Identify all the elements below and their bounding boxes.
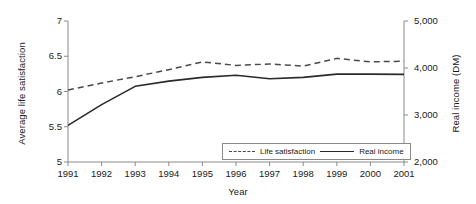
chart-legend: Life satisfaction Real income	[222, 143, 411, 160]
legend-swatch-real-income	[320, 151, 354, 152]
series-line-real-income	[68, 74, 404, 125]
legend-swatch-life-satisfaction	[229, 151, 255, 152]
plot-area	[0, 0, 476, 204]
legend-label-life-satisfaction: Life satisfaction	[260, 147, 315, 156]
chart-figure: Average life satisfaction Real income (D…	[0, 0, 476, 204]
legend-label-real-income: Real income	[359, 147, 403, 156]
